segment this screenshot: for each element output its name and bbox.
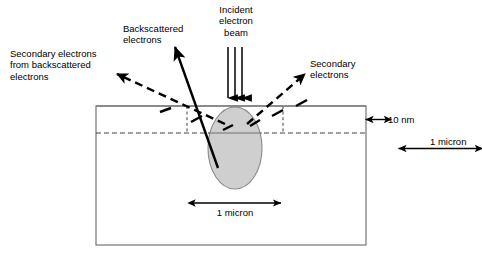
incident-beam-arrows xyxy=(228,47,242,98)
escape-depth-dimension-label: 10 nm xyxy=(388,114,414,125)
backscattered-electrons-label: Backscattered electrons xyxy=(123,23,203,46)
incident-beam-label: Incident electron beam xyxy=(199,4,273,38)
sem-interaction-diagram: Incident electron beam Backscattered ele… xyxy=(0,0,482,263)
secondary-from-backscattered-label: Secondary electrons from backscattered e… xyxy=(10,48,130,82)
diagram-canvas xyxy=(0,0,482,263)
sample-depth-dimension-label: 1 micron xyxy=(430,136,466,147)
interaction-volume xyxy=(208,107,262,189)
secondary-electrons-label: Secondary electrons xyxy=(310,58,382,81)
volume-width-dimension-label: 1 micron xyxy=(195,207,275,218)
